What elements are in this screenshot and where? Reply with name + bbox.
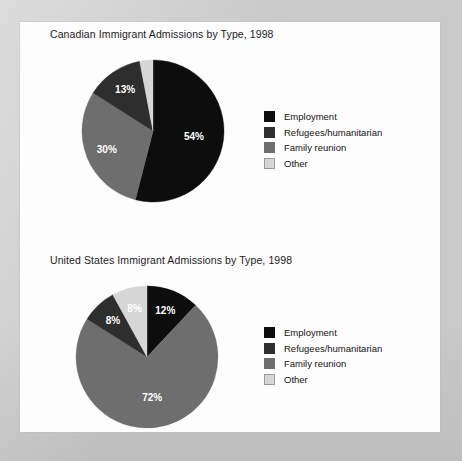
legend-item-other[interactable]: Other xyxy=(264,156,382,171)
pie-chart-usa-svg: 12%72%8%8% xyxy=(74,284,220,430)
pie-slice-label: 8% xyxy=(127,303,142,314)
legend-item-refugees[interactable]: Refugees/humanitarian xyxy=(264,125,382,140)
legend-usa: Employment Refugees/humanitarian Family … xyxy=(264,325,382,387)
legend-swatch-family-reunion xyxy=(264,358,275,369)
pie-chart-canada-svg: 54%30%13%3% xyxy=(80,58,226,204)
pie-chart-canada: 54%30%13%3% xyxy=(80,58,226,204)
pie-slice-label: 13% xyxy=(115,84,135,95)
figure-canada-1998: Canadian Immigrant Admissions by Type, 1… xyxy=(20,22,440,232)
chart-title-usa: United States Immigrant Admissions by Ty… xyxy=(50,254,292,266)
legend-item-family-reunion[interactable]: Family reunion xyxy=(264,140,382,155)
legend-label-other: Other xyxy=(284,374,308,385)
legend-label-refugees: Refugees/humanitarian xyxy=(284,343,382,354)
legend-item-refugees[interactable]: Refugees/humanitarian xyxy=(264,341,382,356)
legend-swatch-other xyxy=(264,374,275,385)
pie-chart-usa: 12%72%8%8% xyxy=(74,284,220,430)
legend-label-employment: Employment xyxy=(284,327,337,338)
legend-item-family-reunion[interactable]: Family reunion xyxy=(264,356,382,371)
legend-swatch-refugees xyxy=(264,343,275,354)
legend-swatch-family-reunion xyxy=(264,142,275,153)
pie-slice-label: 54% xyxy=(184,131,204,142)
legend-label-family-reunion: Family reunion xyxy=(284,358,346,369)
legend-item-employment[interactable]: Employment xyxy=(264,109,382,124)
legend-item-other[interactable]: Other xyxy=(264,372,382,387)
chart-title-canada: Canadian Immigrant Admissions by Type, 1… xyxy=(50,28,274,40)
legend-swatch-refugees xyxy=(264,127,275,138)
legend-label-other: Other xyxy=(284,158,308,169)
legend-item-employment[interactable]: Employment xyxy=(264,325,382,340)
pie-slice-label: 12% xyxy=(155,305,175,316)
pie-slice-label: 30% xyxy=(97,144,117,155)
legend-swatch-employment xyxy=(264,111,275,122)
legend-swatch-other xyxy=(264,158,275,169)
legend-swatch-employment xyxy=(264,327,275,338)
document-page: Canadian Immigrant Admissions by Type, 1… xyxy=(20,22,440,432)
legend-canada: Employment Refugees/humanitarian Family … xyxy=(264,109,382,171)
legend-label-family-reunion: Family reunion xyxy=(284,142,346,153)
pie-slice-label: 8% xyxy=(106,315,121,326)
legend-label-refugees: Refugees/humanitarian xyxy=(284,127,382,138)
legend-label-employment: Employment xyxy=(284,111,337,122)
figure-usa-1998: United States Immigrant Admissions by Ty… xyxy=(20,240,440,432)
pie-slice-label: 72% xyxy=(142,392,162,403)
